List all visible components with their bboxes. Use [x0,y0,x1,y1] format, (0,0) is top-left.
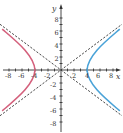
x-axis-label: x [116,72,121,81]
y-axis-arrow-icon [59,4,62,9]
hyperbola-figure: -8 -6 -4 -2 2 4 6 8 8 6 4 2 -2 -4 -6 -8 … [0,0,123,133]
y-tick-label: 6 [55,29,59,37]
x-tick-label: 4 [85,72,89,80]
axes [3,7,118,132]
x-tick-label: 2 [72,72,76,80]
y-tick-label: -6 [50,107,56,115]
x-tick-label: 6 [96,72,100,80]
x-tick-label: -8 [5,72,11,80]
y-tick-label: 2 [55,55,59,63]
y-tick-label: 4 [55,42,59,50]
x-tick-label: -2 [44,72,50,80]
x-tick-label: 8 [109,72,113,80]
x-tick-label: -6 [18,72,24,80]
y-tick-label: -2 [50,81,56,89]
y-tick-label: 8 [55,16,59,24]
y-tick-label: -8 [50,120,56,128]
x-tick-label: -4 [31,72,37,80]
y-tick-label: -4 [50,94,56,102]
y-axis-label: y [51,4,57,13]
